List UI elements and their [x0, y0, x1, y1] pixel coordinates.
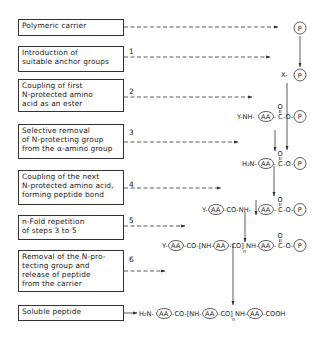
svg-text:P: P	[298, 160, 302, 168]
svg-text:O: O	[278, 232, 283, 240]
svg-text:AA: AA	[261, 160, 271, 168]
svg-text:-CO-[NH-: -CO-[NH-	[184, 242, 214, 250]
svg-text:AA: AA	[216, 242, 226, 250]
svg-text:O: O	[278, 196, 283, 204]
svg-text:AA: AA	[250, 310, 260, 318]
svg-text:AA: AA	[211, 206, 221, 214]
svg-text:O: O	[278, 103, 283, 111]
svg-text:-CO-[NH-: -CO-[NH-	[172, 310, 202, 318]
svg-text:-O-: -O-	[283, 113, 294, 121]
svg-text:AA: AA	[261, 113, 271, 121]
svg-text:NH-: NH-	[235, 310, 248, 318]
structure-free-peptide: H₂N- AA -CO-[NH- AA -CO] n NH- AA -COOH	[139, 309, 285, 323]
solid-vertical-arrows	[233, 36, 300, 305]
svg-text:P: P	[298, 72, 302, 80]
svg-text:-O-: -O-	[283, 160, 294, 168]
svg-text:NH-: NH-	[246, 242, 259, 250]
svg-text:-: -	[274, 160, 277, 168]
structure-carrier: P	[294, 22, 306, 34]
svg-text:AA: AA	[261, 206, 271, 214]
svg-text:X-: X-	[281, 71, 288, 79]
svg-text:H₂N-: H₂N-	[139, 310, 155, 318]
svg-text:Y-: Y-	[201, 206, 208, 214]
svg-text:-COOH: -COOH	[263, 310, 285, 318]
svg-text:AA: AA	[261, 242, 271, 250]
structure-anchor: X- P	[281, 69, 306, 81]
svg-text:-CO-NH-: -CO-NH-	[224, 206, 252, 214]
svg-text:Y-: Y-	[161, 242, 168, 250]
svg-text:AA: AA	[159, 310, 169, 318]
structure-polypeptide-on-carrier: Y- AA -CO-[NH- AA -CO] n NH- AA - C O -O…	[161, 232, 306, 254]
reaction-scheme: P X- P Y-NH- AA - C O -O- P H₂N- AA - C …	[0, 0, 325, 338]
structure-first-amino-acid-ester: Y-NH- AA - C O -O- P	[236, 103, 306, 123]
dashed-connectors	[124, 27, 278, 271]
svg-text:-: -	[274, 242, 277, 250]
svg-text:-O-: -O-	[283, 242, 294, 250]
svg-text:P: P	[298, 25, 302, 33]
svg-text:-CO]: -CO]	[229, 242, 244, 250]
svg-text:-O-: -O-	[283, 206, 294, 214]
svg-text:P: P	[298, 242, 302, 250]
structure-deprotected-amine: H₂N- AA - C O -O- P	[242, 150, 306, 170]
svg-text:-: -	[274, 113, 277, 121]
structure-dipeptide: Y- AA -CO-NH- AA - C O -O- P	[201, 196, 306, 216]
svg-text:AA: AA	[171, 242, 181, 250]
svg-text:Y-NH-: Y-NH-	[236, 113, 256, 121]
svg-text:P: P	[298, 113, 302, 121]
svg-text:-: -	[274, 206, 277, 214]
svg-text:H₂N-: H₂N-	[242, 160, 258, 168]
svg-text:AA: AA	[205, 310, 215, 318]
svg-text:P: P	[298, 206, 302, 214]
svg-text:O: O	[278, 150, 283, 158]
svg-text:-CO]: -CO]	[218, 310, 233, 318]
